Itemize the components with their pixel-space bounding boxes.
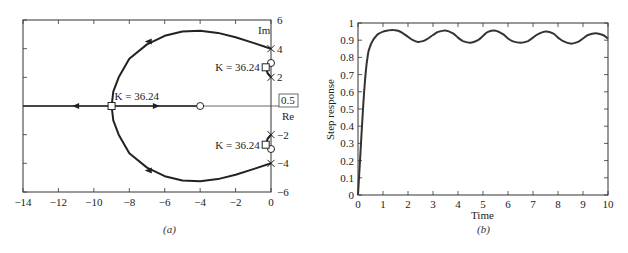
y-tick-label: 0 [349, 189, 355, 201]
direction-arrow [72, 103, 79, 109]
boxed-value: 0.5 [281, 94, 295, 106]
x-tick-label: −8 [123, 196, 135, 208]
gain-marker [262, 64, 269, 71]
y-tick-label: 0.4 [340, 120, 354, 132]
x-tick-label: 1 [380, 198, 386, 210]
figure: −14−12−10−8−6−4−20 642−2−4−6 K = 36.24K … [0, 0, 628, 253]
x-axis-label-time: Time [471, 209, 494, 221]
y-tick-label: 0.6 [340, 86, 354, 98]
x-tick-label: −2 [230, 196, 242, 208]
y-tick-label: 0.7 [340, 69, 354, 81]
y-tick-label: 4 [277, 43, 283, 55]
y-tick-label: 6 [277, 14, 283, 26]
x-tick-label: 9 [580, 198, 586, 210]
y-tick-label: 0.5 [340, 103, 354, 115]
x-tick-label: 10 [603, 198, 615, 210]
gain-label: K = 36.24 [115, 90, 160, 102]
y-tick-label: 0.8 [340, 51, 354, 63]
x-tick-label: 3 [430, 198, 436, 210]
step-response-plot: 012345678910 00.10.20.30.40.50.60.70.80.… [324, 17, 614, 236]
x-tick-label: 2 [405, 198, 411, 210]
x-tick-label: −12 [50, 196, 67, 208]
x-tick-label: −10 [85, 196, 103, 208]
y-axis-label-step-response: Step response [324, 79, 336, 140]
x-tick-label: −14 [14, 196, 32, 208]
root-locus-plot: −14−12−10−8−6−4−20 642−2−4−6 K = 36.24K … [14, 14, 298, 236]
y-tick-label: 2 [277, 71, 283, 83]
y-tick-label: 0.1 [340, 172, 354, 184]
gain-label: K = 36.24 [215, 61, 260, 73]
x-axis-label-re: Re [282, 110, 294, 122]
gain-label: K = 36.24 [215, 139, 260, 151]
y-tick-label: 0.9 [340, 34, 354, 46]
x-tick-label: 0 [355, 198, 361, 210]
x-tick-label: 6 [505, 198, 511, 210]
gain-marker [108, 103, 115, 110]
step-response-line [358, 30, 608, 195]
caption-b: (b) [477, 223, 490, 236]
x-tick-label: −6 [159, 196, 171, 208]
zero-marker [197, 103, 204, 110]
y-axis-label-im: Im [258, 24, 271, 36]
x-tick-label: −4 [194, 196, 206, 208]
caption-a: (a) [163, 223, 176, 236]
y-tick-label: −6 [277, 186, 289, 198]
gain-marker [262, 141, 269, 148]
plot-b-frame [358, 23, 608, 195]
y-tick-label: 0.2 [340, 155, 354, 167]
x-tick-label: 7 [530, 198, 536, 210]
y-tick-label: 1 [349, 17, 355, 29]
y-tick-label: 0.3 [340, 137, 354, 149]
x-tick-label: 0 [268, 196, 274, 208]
y-tick-label: −4 [277, 157, 289, 169]
x-tick-label: 4 [455, 198, 461, 210]
y-tick-label: −2 [277, 129, 289, 141]
direction-arrow [153, 103, 160, 109]
x-tick-label: 8 [555, 198, 561, 210]
